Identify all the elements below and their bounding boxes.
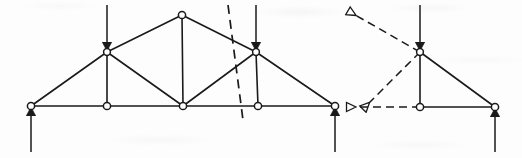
left-support-joint — [27, 102, 34, 109]
vertical-web-center — [182, 15, 183, 106]
top-chord-right-lower — [256, 52, 335, 106]
lower-right-joint — [254, 102, 261, 109]
truss-figure — [0, 0, 522, 158]
top-chord-right-upper — [182, 15, 256, 52]
lower-left-joint — [103, 102, 110, 109]
lower-center-joint — [179, 102, 186, 109]
cut-force-diagonal — [369, 52, 420, 103]
reaction-group — [31, 115, 335, 152]
fbd-top-joint — [417, 49, 424, 56]
fbd-support-joint — [491, 103, 498, 110]
diagonal-web-right — [183, 52, 256, 106]
free-body-diagram-group — [356, 5, 499, 152]
right-support-joint — [331, 102, 338, 109]
top-chord-left-lower — [31, 52, 107, 106]
full-truss-group — [27, 5, 338, 152]
fbd-diagonal-member — [420, 52, 495, 107]
apex-joint — [178, 11, 185, 18]
web-member-group — [107, 15, 258, 106]
truss-figure-canvas — [0, 0, 522, 158]
diagonal-web-left — [107, 52, 183, 106]
top-chord-left-upper — [107, 15, 182, 52]
cut-force-top-chord — [356, 15, 420, 52]
fbd-member-group — [420, 52, 495, 107]
upper-left-joint — [104, 49, 111, 56]
vertical-web-right — [256, 52, 258, 106]
fbd-bottom-center-joint — [416, 103, 423, 110]
upper-right-joint — [253, 49, 260, 56]
internal-force-group — [356, 15, 421, 107]
